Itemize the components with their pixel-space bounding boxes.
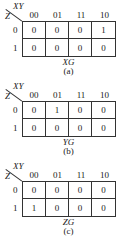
kmap-cell: 0 [92,102,115,119]
column-header: 11 [69,11,93,20]
row-header: 1 [13,44,18,53]
column-header: 10 [93,91,117,100]
function-label: XG [0,58,125,67]
column-variable-label: XY [13,162,24,171]
row-header: 0 [13,106,18,115]
column-variable-label: XY [13,2,24,11]
kmap-cell: 0 [23,182,46,199]
column-header: 00 [22,171,46,180]
kmap-cell: 0 [69,22,92,39]
kmap-cell: 0 [92,199,115,216]
kmap-grid: 00010000 [22,21,116,57]
row-header: 1 [13,124,18,133]
kmap-cell: 0 [92,119,115,136]
row-variable-label: Z [5,12,10,21]
column-header: 10 [93,171,117,180]
kmap-cell: 0 [46,39,69,56]
kmap-cell: 1 [46,102,69,119]
function-label: ZG [0,218,125,227]
kmap-cell: 0 [69,102,92,119]
kmap-grid: 01000000 [22,101,116,137]
column-variable-label: XY [13,82,24,91]
kmap-cell: 0 [46,182,69,199]
kmap-cell: 1 [23,199,46,216]
row-variable-label: Z [5,172,10,181]
column-header: 01 [46,91,70,100]
kmap-cell: 0 [69,199,92,216]
subfigure-caption: (a) [0,67,125,76]
column-header: 01 [46,11,70,20]
karnaugh-map-zg: XYZ000111100100001000ZG(c) [0,160,125,240]
column-header: 10 [93,11,117,20]
kmap-cell: 0 [69,119,92,136]
subfigure-caption: (c) [0,227,125,236]
kmap-cell: 0 [69,39,92,56]
karnaugh-map-xg: XYZ000111100100010000XG(a) [0,0,125,80]
kmap-cell: 0 [46,22,69,39]
row-variable-label: Z [5,92,10,101]
subfigure-caption: (b) [0,147,125,156]
column-header: 11 [69,91,93,100]
kmap-cell: 0 [69,182,92,199]
column-header: 11 [69,171,93,180]
kmap-cell: 0 [23,39,46,56]
column-header: 00 [22,11,46,20]
karnaugh-map-yg: XYZ000111100101000000YG(b) [0,80,125,160]
column-header: 01 [46,171,70,180]
row-header: 0 [13,186,18,195]
kmap-cell: 0 [46,199,69,216]
row-header: 1 [13,204,18,213]
kmap-cell: 0 [46,119,69,136]
kmap-cell: 0 [92,39,115,56]
row-header: 0 [13,26,18,35]
kmap-grid: 00001000 [22,181,116,217]
kmap-cell: 0 [23,22,46,39]
kmap-cell: 1 [92,22,115,39]
kmap-cell: 0 [23,102,46,119]
kmap-cell: 0 [92,182,115,199]
kmap-cell: 0 [23,119,46,136]
column-header: 00 [22,91,46,100]
